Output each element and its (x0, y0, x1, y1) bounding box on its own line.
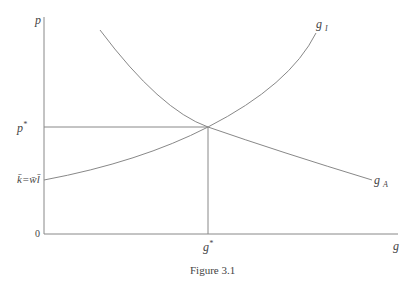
g-i-sub: I (325, 24, 328, 33)
p-star-sup: * (23, 120, 27, 129)
y-axis-label: p (35, 14, 41, 26)
curve-g-a (100, 30, 372, 180)
curve-g-i (44, 33, 316, 180)
g-a-main: g (374, 173, 380, 187)
g-star-sup: * (209, 239, 213, 248)
curve-g-a-label: g A (374, 174, 388, 189)
curve-g-i-label: g I (316, 18, 328, 33)
x-axis-label: g (393, 240, 399, 252)
p-star-label: p* (17, 121, 27, 134)
origin-label: 0 (35, 229, 40, 239)
k-bar-label: k̄=w̄l̄ (17, 174, 40, 185)
figure-caption: Figure 3.1 (190, 264, 235, 276)
g-star-label: g* (203, 240, 213, 253)
g-a-sub: A (383, 180, 388, 189)
g-i-main: g (316, 17, 322, 31)
